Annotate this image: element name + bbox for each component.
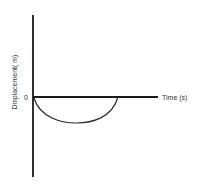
displacement-curve xyxy=(34,97,118,123)
y-axis-label: Displacement( m) xyxy=(11,55,19,110)
origin-label: 0 xyxy=(24,94,28,101)
displacement-time-graph: 0 Time (s) Displacement( m) xyxy=(0,0,198,184)
x-axis-label: Time (s) xyxy=(162,94,187,102)
